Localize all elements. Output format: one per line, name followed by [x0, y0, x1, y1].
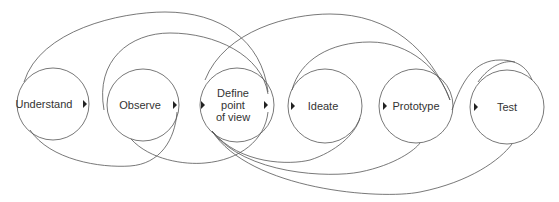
arrow-icon: [201, 101, 205, 109]
arrow-icon: [383, 102, 387, 110]
stage-label-define-line2: point: [216, 99, 250, 111]
stage-label-ideate: Ideate: [308, 100, 339, 112]
loop-define-test-bottom: [212, 131, 512, 194]
loop-ideate-prototype-top: [292, 42, 450, 100]
loop-understand-define: [24, 12, 268, 92]
stage-label-observe: Observe: [119, 99, 161, 111]
stage-label-define: Define point of view: [216, 87, 250, 123]
diagram-canvas: [0, 0, 559, 202]
stage-label-prototype: Prototype: [392, 100, 439, 112]
arrow-icon: [173, 101, 177, 109]
arrow-icon: [291, 102, 295, 110]
loop-define-prototype-bottom: [212, 131, 420, 174]
stage-label-define-line1: Define: [216, 87, 250, 99]
arrow-icon: [474, 103, 478, 111]
stage-label-understand: Understand: [16, 98, 73, 110]
arrow-icon: [264, 101, 268, 109]
stage-label-define-line3: of view: [216, 111, 250, 123]
arrow-icon: [83, 100, 87, 108]
stage-label-test: Test: [497, 101, 517, 113]
